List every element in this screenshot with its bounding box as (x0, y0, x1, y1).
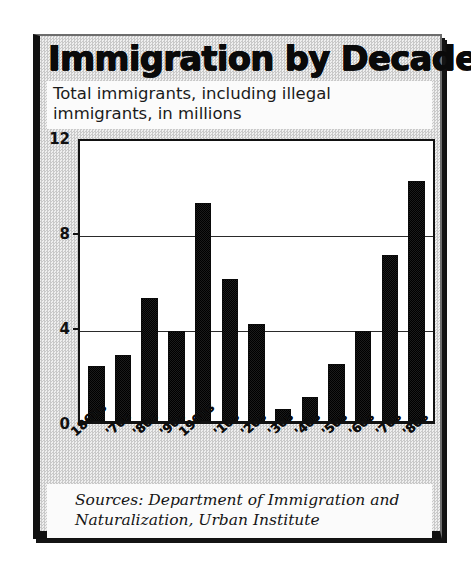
y-tick-label: 12 (49, 130, 70, 148)
bar (222, 279, 239, 422)
x-slot: 1860s (78, 426, 105, 486)
y-tick-label: 0 (60, 415, 70, 433)
bar-slot (83, 141, 110, 421)
bar (408, 181, 425, 421)
bar-slot (136, 141, 163, 421)
bar-slot (323, 141, 350, 421)
bar-slot (403, 141, 430, 421)
x-slot: '40s (295, 426, 322, 486)
y-axis: 04812 (47, 139, 73, 434)
x-slot: '10s (213, 426, 240, 486)
x-slot: '60s (349, 426, 376, 486)
plot-area (78, 139, 435, 424)
bar-slot (377, 141, 404, 421)
y-tick-label: 8 (60, 225, 70, 243)
x-slot: '80s (132, 426, 159, 486)
chart-subtitle: Total immigrants, including illegal immi… (53, 84, 426, 124)
bar-series (80, 141, 433, 421)
bar-slot (190, 141, 217, 421)
plot-wrapper: 04812 (47, 139, 435, 434)
x-slot: '30s (268, 426, 295, 486)
title-band: Immigration by Decade (48, 39, 438, 79)
bar (355, 331, 372, 421)
bar-slot (270, 141, 297, 421)
x-slot: '70s (105, 426, 132, 486)
bar (168, 331, 185, 421)
chart-figure: Immigration by Decade Total immigrants, … (33, 34, 442, 539)
y-tick-label: 4 (60, 320, 70, 338)
x-slot: '20s (240, 426, 267, 486)
bar (195, 203, 212, 422)
bar-slot (350, 141, 377, 421)
bar-slot (110, 141, 137, 421)
bar-slot (163, 141, 190, 421)
source-text: Sources: Department of Immigration and N… (75, 490, 422, 530)
bar-slot (297, 141, 324, 421)
bar (248, 324, 265, 421)
x-slot: '70s (376, 426, 403, 486)
bar-slot (243, 141, 270, 421)
bar (382, 255, 399, 421)
bar-slot (216, 141, 243, 421)
x-slot: '80s (403, 426, 430, 486)
source-box: Sources: Department of Immigration and N… (47, 484, 432, 538)
chart-title: Immigration by Decade (48, 39, 446, 79)
x-slot: 1900s (186, 426, 213, 486)
x-axis: 1860s'70s'80s'90s1900s'10s'20s'30s'40s'5… (78, 426, 430, 486)
bar (141, 298, 158, 422)
x-slot: '50s (322, 426, 349, 486)
subtitle-box: Total immigrants, including illegal immi… (47, 81, 432, 129)
